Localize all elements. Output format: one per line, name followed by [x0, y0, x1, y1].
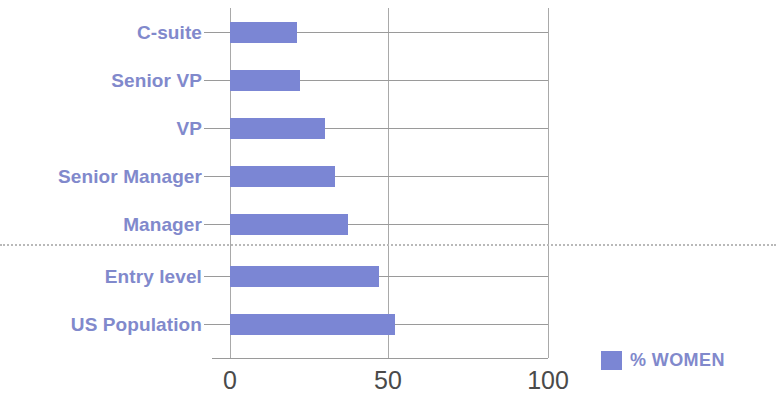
category-label-entry-level: Entry level — [105, 266, 202, 288]
axis-tick-dash — [204, 80, 230, 81]
bar-vp — [230, 118, 325, 139]
category-label-vp: VP — [176, 118, 202, 140]
category-label-senior-vp: Senior VP — [111, 70, 202, 92]
bar-senior-vp — [230, 70, 300, 91]
bar-manager — [230, 214, 348, 235]
bar-entry-level — [230, 266, 379, 287]
x-tick-label-50: 50 — [348, 366, 428, 395]
axis-tick-dash — [204, 176, 230, 177]
plot-area — [230, 8, 548, 358]
x-tick-label-0: 0 — [190, 366, 270, 395]
category-axis: C-suite Senior VP VP Senior Manager Mana… — [0, 8, 202, 358]
gridline-x-100 — [548, 8, 549, 358]
gridline-x-50 — [388, 8, 389, 358]
axis-tick-dash — [204, 324, 230, 325]
category-label-us-population: US Population — [71, 314, 202, 336]
legend-label-percent-women: % WOMEN — [630, 350, 725, 371]
dotted-divider — [0, 244, 776, 246]
legend: % WOMEN — [601, 350, 725, 371]
category-label-manager: Manager — [123, 214, 202, 236]
axis-tick-dash — [204, 224, 230, 225]
legend-swatch-percent-women — [601, 351, 622, 370]
axis-tick-dash — [204, 32, 230, 33]
bar-us-population — [230, 314, 395, 335]
category-label-c-suite: C-suite — [137, 22, 202, 44]
category-label-senior-manager: Senior Manager — [58, 166, 202, 188]
axis-tick-dash — [204, 128, 230, 129]
bar-chart: C-suite Senior VP VP Senior Manager Mana… — [0, 0, 776, 407]
x-axis-line — [212, 358, 548, 359]
bar-c-suite — [230, 22, 297, 43]
axis-tick-dash — [204, 276, 230, 277]
bar-senior-manager — [230, 166, 335, 187]
x-tick-label-100: 100 — [508, 366, 588, 395]
